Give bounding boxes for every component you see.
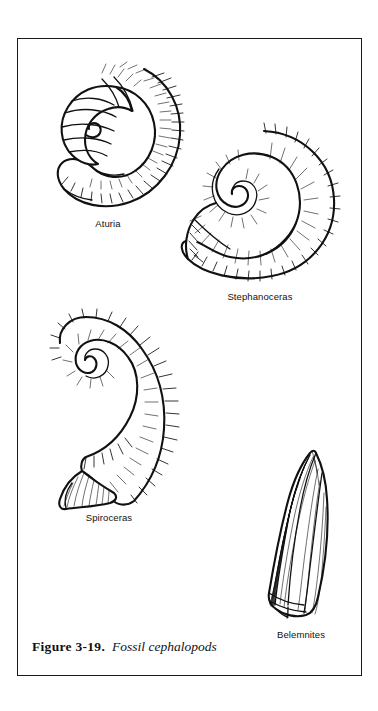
specimen-label-aturia: Aturia: [40, 217, 186, 230]
specimen-spiroceras: Spiroceras: [42, 311, 194, 524]
specimen-stephanoceras: Stephanoceras: [176, 121, 344, 303]
figure-caption-number: Figure 3-19.: [32, 639, 105, 654]
figure-plate: Aturia: [17, 38, 362, 676]
spiroceras-illustration: [42, 311, 194, 511]
specimen-belemnites: Belemnites: [230, 447, 360, 641]
aturia-illustration: [40, 47, 186, 217]
specimen-aturia: Aturia: [40, 47, 186, 230]
specimen-label-spiroceras: Spiroceras: [42, 511, 194, 524]
stephanoceras-illustration: [176, 121, 344, 289]
belemnites-illustration: [230, 447, 360, 627]
figure-caption-title: Fossil cephalopods: [105, 639, 217, 654]
figure-caption: Figure 3-19.Fossil cephalopods: [32, 639, 349, 655]
specimen-label-stephanoceras: Stephanoceras: [176, 289, 344, 303]
